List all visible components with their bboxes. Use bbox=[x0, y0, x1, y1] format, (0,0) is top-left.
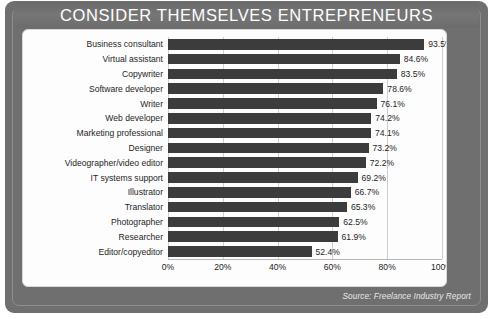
bar-category-label: Software developer bbox=[89, 84, 163, 93]
bar-fill bbox=[168, 54, 400, 65]
bar-row: Translator65.3% bbox=[23, 200, 447, 215]
bar-value-label: 83.5% bbox=[401, 70, 425, 79]
bar-row: Business consultant93.5% bbox=[23, 37, 447, 52]
bar-track bbox=[168, 128, 442, 139]
bar-value-label: 69.2% bbox=[362, 173, 386, 182]
bar-fill bbox=[168, 246, 312, 257]
bar-track bbox=[168, 202, 442, 213]
x-tick-label: 20% bbox=[214, 262, 231, 272]
bar-value-label: 74.2% bbox=[375, 114, 399, 123]
bar-row: Marketing professional74.1% bbox=[23, 126, 447, 141]
bar-fill bbox=[168, 98, 377, 109]
bar-row: Writer76.1% bbox=[23, 96, 447, 111]
bar-value-label: 84.6% bbox=[404, 55, 428, 64]
bar-category-label: IT systems support bbox=[91, 173, 163, 182]
bar-fill bbox=[168, 172, 358, 183]
bar-value-label: 66.7% bbox=[355, 188, 379, 197]
bar-row: Researcher61.9% bbox=[23, 229, 447, 244]
bar-track bbox=[168, 113, 442, 124]
bar-track bbox=[168, 246, 442, 257]
bar-value-label: 52.4% bbox=[316, 247, 340, 256]
bar-track bbox=[168, 143, 442, 154]
bar-row: Videographer/video editor72.2% bbox=[23, 155, 447, 170]
bar-category-label: Web developer bbox=[105, 114, 163, 123]
chart-card: Business consultant93.5%Virtual assistan… bbox=[22, 29, 447, 287]
bar-row: Designer73.2% bbox=[23, 141, 447, 156]
bar-value-label: 65.3% bbox=[351, 203, 375, 212]
x-tick-label: 60% bbox=[324, 262, 341, 272]
bar-category-label: Editor/copyeditor bbox=[99, 247, 164, 256]
bar-category-label: Designer bbox=[129, 144, 163, 153]
bar-fill bbox=[168, 39, 424, 50]
title-bar: CONSIDER THEMSELVES ENTREPRENEURS bbox=[14, 2, 479, 28]
bar-track bbox=[168, 172, 442, 183]
bar-track bbox=[168, 217, 442, 228]
bar-category-label: Writer bbox=[140, 99, 163, 108]
bar-track bbox=[168, 157, 442, 168]
bar-value-label: 78.6% bbox=[387, 84, 411, 93]
bar-fill bbox=[168, 83, 383, 94]
page-title: CONSIDER THEMSELVES ENTREPRENEURS bbox=[60, 6, 433, 25]
bar-category-label: Researcher bbox=[119, 232, 163, 241]
x-axis-tick-labels: 0%20%40%60%80%100% bbox=[168, 262, 442, 278]
bar-track bbox=[168, 54, 442, 65]
bar-row: IT systems support69.2% bbox=[23, 170, 447, 185]
bar-category-label: Photographer bbox=[111, 218, 163, 227]
bar-row: Web developer74.2% bbox=[23, 111, 447, 126]
bar-track bbox=[168, 39, 442, 50]
bar-track bbox=[168, 231, 442, 242]
bar-row: Software developer78.6% bbox=[23, 81, 447, 96]
bar-fill bbox=[168, 113, 371, 124]
bar-fill bbox=[168, 202, 347, 213]
bar-rows: Business consultant93.5%Virtual assistan… bbox=[23, 37, 447, 259]
bar-value-label: 93.5% bbox=[428, 40, 447, 49]
bar-value-label: 62.5% bbox=[343, 218, 367, 227]
bar-category-label: Virtual assistant bbox=[102, 55, 163, 64]
bar-value-label: 72.2% bbox=[370, 158, 394, 167]
bar-category-label: Marketing professional bbox=[77, 129, 163, 138]
infographic-screenshot: CONSIDER THEMSELVES ENTREPRENEURS Busine… bbox=[0, 0, 493, 319]
bar-value-label: 61.9% bbox=[342, 232, 366, 241]
x-tick-label: 80% bbox=[379, 262, 396, 272]
x-axis-baseline bbox=[168, 259, 442, 260]
x-tick-label: 0% bbox=[162, 262, 174, 272]
bar-fill bbox=[168, 231, 338, 242]
bar-fill bbox=[168, 143, 369, 154]
x-tick-label: 40% bbox=[269, 262, 286, 272]
bar-fill bbox=[168, 128, 371, 139]
bar-track bbox=[168, 187, 442, 198]
bar-category-label: Videographer/video editor bbox=[65, 158, 163, 167]
bar-row: Illustrator66.7% bbox=[23, 185, 447, 200]
bar-row: Photographer62.5% bbox=[23, 215, 447, 230]
bar-value-label: 73.2% bbox=[373, 144, 397, 153]
bar-row: Copywriter83.5% bbox=[23, 67, 447, 82]
bar-value-label: 74.1% bbox=[375, 129, 399, 138]
bar-value-label: 76.1% bbox=[381, 99, 405, 108]
source-attribution: Source: Freelance Industry Report bbox=[343, 292, 471, 301]
x-tick-label: 100% bbox=[431, 262, 447, 272]
bar-category-label: Business consultant bbox=[87, 40, 163, 49]
bar-fill bbox=[168, 187, 351, 198]
bar-category-label: Illustrator bbox=[128, 188, 163, 197]
bar-category-label: Translator bbox=[125, 203, 163, 212]
bar-row: Virtual assistant84.6% bbox=[23, 52, 447, 67]
bar-fill bbox=[168, 217, 339, 228]
bar-fill bbox=[168, 157, 366, 168]
bar-category-label: Copywriter bbox=[122, 70, 163, 79]
bar-row: Editor/copyeditor52.4% bbox=[23, 244, 447, 259]
bar-fill bbox=[168, 69, 397, 80]
